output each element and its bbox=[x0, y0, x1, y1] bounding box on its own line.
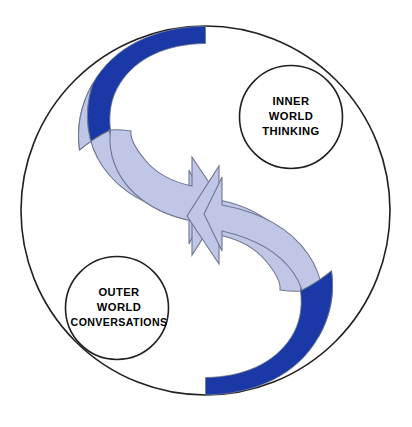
outer-world-line-2: WORLD bbox=[97, 301, 141, 313]
inner-world-line-1: INNER bbox=[273, 95, 310, 107]
outer-world-label-group[interactable]: OUTER WORLD CONVERSATIONS bbox=[66, 257, 169, 360]
outer-world-line-3: CONVERSATIONS bbox=[71, 316, 168, 328]
inner-world-line-2: WORLD bbox=[269, 110, 313, 122]
inner-world-line-3: THINKING bbox=[262, 125, 319, 137]
diagram-root: INNER WORLD THINKING OUTER WORLD CONVERS… bbox=[0, 0, 412, 427]
inner-outer-world-diagram: INNER WORLD THINKING OUTER WORLD CONVERS… bbox=[0, 0, 412, 427]
outer-world-line-1: OUTER bbox=[98, 286, 139, 298]
inner-world-label-group[interactable]: INNER WORLD THINKING bbox=[240, 66, 343, 169]
